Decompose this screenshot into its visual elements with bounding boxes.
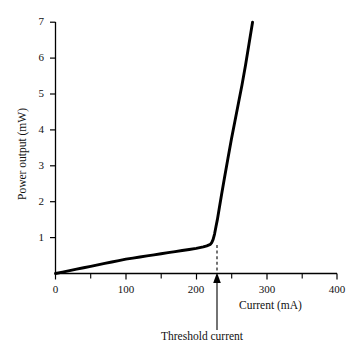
y-tick-label-2: 2	[32, 195, 44, 207]
y-tick-label-4: 4	[32, 123, 44, 135]
y-tick-label-7: 7	[32, 15, 44, 27]
y-axis-title: Power output (mW)	[16, 108, 28, 200]
x-tick-label-100: 100	[111, 283, 141, 295]
x-tick-label-400: 400	[322, 283, 352, 295]
x-tick-label-200: 200	[181, 283, 211, 295]
y-tick-label-5: 5	[32, 87, 44, 99]
y-axis-ticks	[50, 22, 56, 237]
threshold-current-label: Threshold current	[161, 330, 243, 342]
y-tick-label-1: 1	[32, 231, 44, 243]
laser-diode-power-current-chart: 1 2 3 4 5 6 7 0 100 200 300 400 Power ou…	[0, 0, 361, 355]
x-tick-label-0: 0	[43, 283, 68, 295]
x-tick-label-300: 300	[252, 283, 282, 295]
power-current-curve	[56, 22, 253, 273]
x-axis-title: Current (mA)	[239, 299, 302, 311]
y-tick-label-3: 3	[32, 159, 44, 171]
y-tick-label-6: 6	[32, 51, 44, 63]
x-axis-major-ticks	[56, 274, 338, 280]
chart-canvas	[0, 0, 361, 355]
